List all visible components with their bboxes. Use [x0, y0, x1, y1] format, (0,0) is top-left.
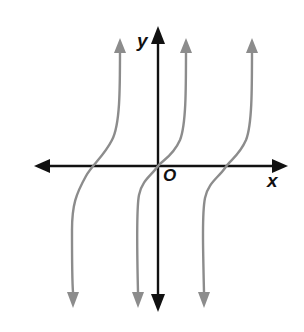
- curve-left-up-arrow-icon: [114, 38, 126, 53]
- x-axis-label: x: [267, 170, 278, 192]
- curve-right-down-arrow-icon: [198, 292, 210, 308]
- graph-canvas: [0, 0, 304, 332]
- y-axis-label: y: [137, 30, 148, 52]
- x-axis: [34, 159, 288, 173]
- curve-left: [67, 38, 126, 308]
- curve-left-down-arrow-icon: [67, 292, 79, 308]
- curve-middle-down-arrow-icon: [132, 292, 144, 308]
- curve-middle: [132, 38, 192, 308]
- x-axis-left-arrow-icon: [34, 159, 50, 173]
- y-axis-up-arrow-icon: [151, 26, 165, 44]
- origin-label: O: [163, 166, 176, 186]
- y-axis-down-arrow-icon: [151, 294, 165, 312]
- curve-right-up-arrow-icon: [246, 38, 258, 53]
- curve-right: [198, 38, 258, 308]
- curve-middle-up-arrow-icon: [180, 38, 192, 53]
